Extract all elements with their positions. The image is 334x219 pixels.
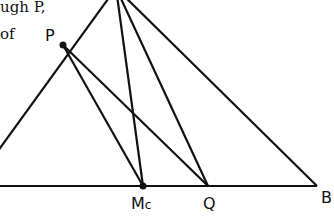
label-Mc-main: M bbox=[131, 194, 145, 213]
label-Q: Q bbox=[203, 194, 216, 213]
segment-P-Q bbox=[63, 45, 208, 186]
point-P bbox=[60, 42, 67, 49]
geometry-diagram: ugh P, of P Mc Q B bbox=[0, 0, 334, 219]
label-P: P bbox=[45, 26, 55, 45]
segment-A-B bbox=[116, 0, 317, 186]
label-Mc: Mc bbox=[131, 194, 151, 213]
label-Mc-sub: c bbox=[145, 198, 152, 212]
segment-P-Mc bbox=[63, 45, 143, 186]
point-Mc bbox=[140, 183, 147, 190]
label-B: B bbox=[321, 188, 332, 207]
segment-A-Mc bbox=[116, 0, 143, 186]
